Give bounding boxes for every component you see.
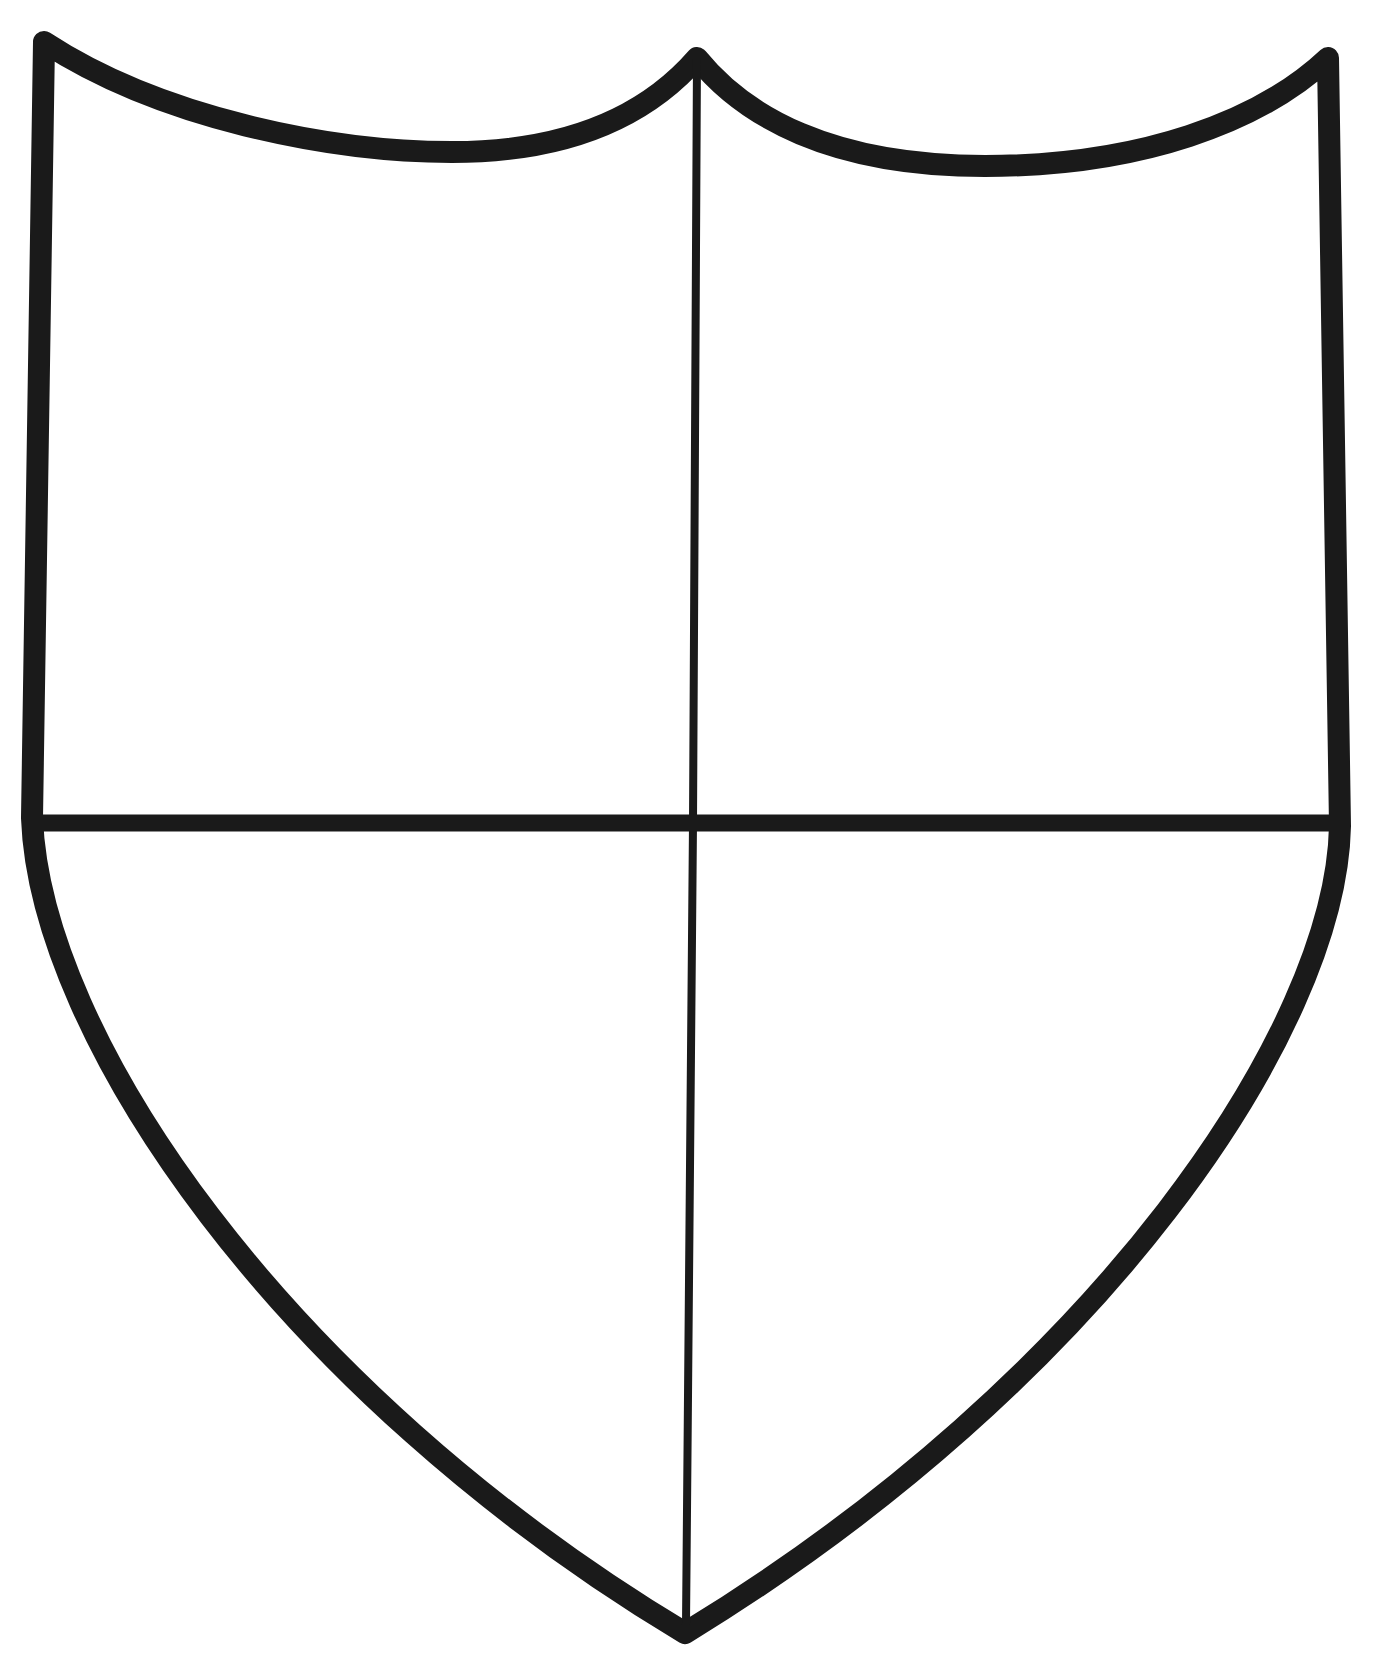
shield-illustration (0, 0, 1377, 1665)
drawing-canvas (0, 0, 1377, 1665)
